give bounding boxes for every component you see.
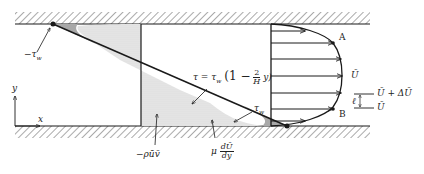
x-axis-label: x [38, 115, 43, 124]
neg-tau-w-leader [37, 28, 50, 52]
reynolds-stress-label: −ρūv̄ [136, 150, 160, 159]
bottom-wall [15, 126, 370, 138]
coordinate-axes [15, 96, 40, 126]
tau-w-leader [234, 112, 252, 122]
point-a-label: A [339, 33, 346, 42]
neg-tau-w-label: −τw [24, 50, 42, 61]
upper-velocity-label: Ū + ΔŪ [377, 89, 412, 98]
mixing-length-label: ℓ [352, 97, 356, 106]
top-wall-stress-point [51, 22, 56, 27]
mean-velocity-label: Ū [351, 71, 359, 80]
top-wall [15, 12, 370, 24]
viscous-stress-label: μ dŪdy [211, 143, 234, 160]
mixing-length-indicator [354, 94, 374, 108]
tau-equation-label: τ = τw (1 − 2H y) [193, 69, 272, 86]
tau-w-label: τw [254, 104, 264, 115]
velocity-profile [271, 24, 342, 126]
y-axis-label: y [12, 84, 17, 93]
lower-velocity-label: Ū [377, 103, 385, 112]
point-b-label: B [339, 110, 346, 119]
